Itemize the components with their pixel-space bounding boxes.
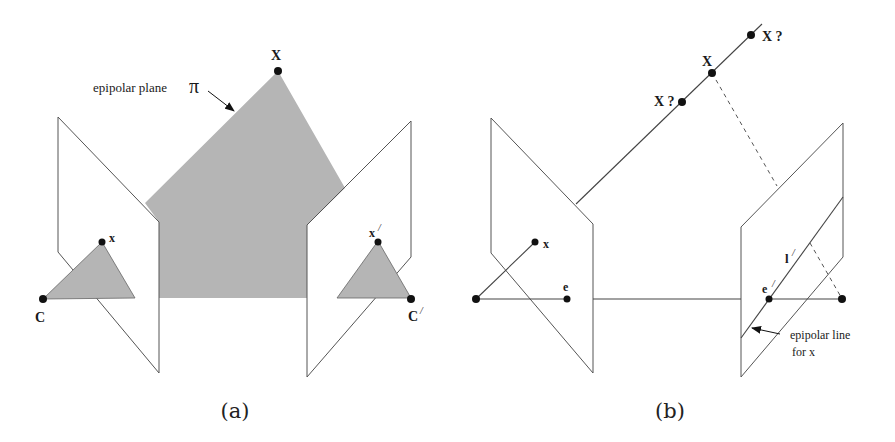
world-point-X-label: X	[271, 48, 281, 63]
epipolar-geometry-figure: epipolar plane π X x x / C C / (a)	[0, 0, 895, 442]
left-image-point-label-b: x	[543, 237, 549, 251]
candidate-X-far-label: X ?	[762, 29, 783, 44]
left-image-point-x	[99, 239, 106, 246]
right-camera-prime: /	[419, 305, 424, 316]
right-camera-label: C	[408, 309, 418, 324]
right-image-point-label: x	[369, 226, 375, 240]
caption-a: (a)	[221, 399, 250, 423]
left-camera-center-b	[472, 295, 480, 303]
epipolar-plane-label: epipolar plane	[93, 80, 167, 95]
epipolar-line-annotation-1: epipolar line	[790, 328, 850, 342]
left-epipole-e	[564, 296, 571, 303]
right-epipole-e-prime	[766, 296, 773, 303]
panel-a: epipolar plane π X x x / C C / (a)	[35, 48, 424, 423]
right-camera-center-C-prime	[407, 295, 415, 303]
world-point-X-label-b: X	[702, 54, 712, 69]
left-image-point-x-b	[532, 239, 539, 246]
world-point-X	[274, 67, 282, 75]
left-image-point-label: x	[109, 231, 115, 245]
dashed-ray-lower	[810, 243, 841, 297]
left-image-plane-b	[491, 118, 593, 373]
ray-segment-c-to-x	[476, 242, 535, 299]
epipolar-line-prime: /	[791, 247, 796, 258]
epipolar-line-arrow-icon	[752, 328, 780, 334]
epipolar-line-annotation-2: for x	[792, 345, 815, 359]
right-image-point-prime: /	[377, 222, 382, 233]
epipolar-line-label: l	[785, 251, 789, 266]
left-ray-triangle	[43, 242, 135, 299]
epipolar-plane-pi	[145, 71, 345, 298]
right-epipole-prime: /	[771, 278, 776, 289]
right-camera-center-b	[838, 295, 846, 303]
back-projected-ray	[576, 24, 762, 204]
left-epipole-label: e	[563, 280, 569, 294]
left-camera-label: C	[35, 310, 45, 325]
caption-b: (b)	[655, 399, 685, 423]
right-image-point-x-prime	[375, 239, 382, 246]
panel-b: X ? X X ? x e e / l / epipolar line for …	[472, 24, 850, 423]
dashed-ray-upper	[712, 73, 777, 186]
pi-label: π	[189, 75, 199, 97]
world-point-X-b	[708, 69, 716, 77]
left-camera-center-C	[39, 295, 47, 303]
candidate-point-X-far	[747, 31, 755, 39]
pi-arrow-icon	[208, 91, 234, 111]
candidate-point-X-near	[678, 98, 686, 106]
candidate-X-near-label: X ?	[654, 94, 675, 109]
right-epipole-label: e	[762, 282, 768, 296]
left-image-plane	[58, 117, 159, 373]
